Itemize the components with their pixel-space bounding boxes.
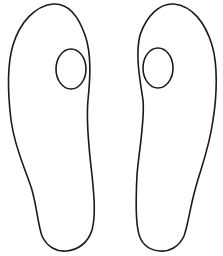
left-oval-mark: [56, 49, 86, 89]
right-insole-outline: [136, 4, 216, 251]
left-insole: [9, 4, 95, 251]
right-oval-mark: [143, 48, 173, 88]
right-insole: [136, 4, 216, 251]
left-insole-outline: [9, 4, 95, 251]
insoles-drawing: [0, 0, 223, 256]
